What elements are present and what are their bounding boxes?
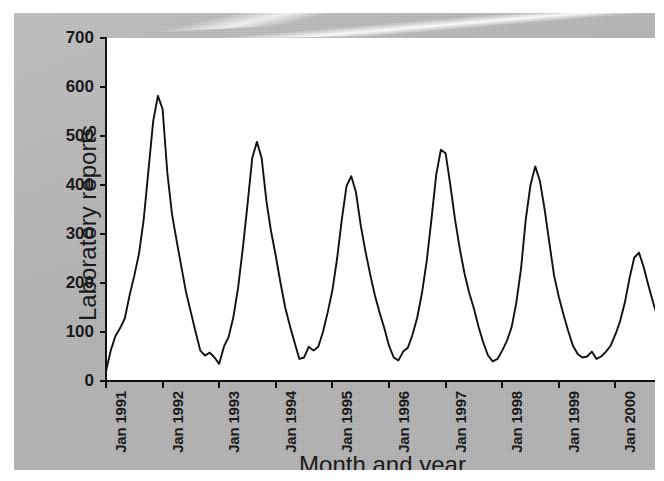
figure-root: 0100200300400500600700 Jan 1991Jan 1992J… (0, 0, 664, 481)
laboratory-reports-line (106, 96, 655, 379)
x-tick-mark (218, 382, 220, 388)
x-tick-label: Jan 1999 (565, 391, 582, 453)
line-chart-svg (106, 38, 655, 381)
x-tick-label: Jan 1992 (169, 391, 186, 453)
y-tick-mark (100, 37, 106, 39)
y-tick-label: 700 (44, 29, 94, 46)
x-tick-mark (105, 382, 107, 388)
x-tick-mark (162, 382, 164, 388)
x-tick-label: Jan 1996 (395, 391, 412, 453)
x-tick-mark (558, 382, 560, 388)
x-tick-label: Jan 1993 (225, 391, 242, 453)
x-axis-line (105, 380, 655, 382)
scan-streak-artifact-secondary (134, 13, 374, 33)
scan-streak-artifact (194, 13, 655, 39)
scanned-page-panel: 0100200300400500600700 Jan 1991Jan 1992J… (14, 13, 655, 470)
plot-area (106, 38, 655, 381)
x-tick-mark (445, 382, 447, 388)
x-axis-title: Month and year (106, 451, 655, 470)
x-tick-mark (388, 382, 390, 388)
x-tick-mark (331, 382, 333, 388)
x-tick-label: Jan 1995 (338, 391, 355, 453)
x-tick-label: Jan 1997 (452, 391, 469, 453)
y-axis-title: Laboratory reports (74, 63, 102, 383)
x-tick-label: Jan 2000 (621, 391, 638, 453)
x-tick-mark (614, 382, 616, 388)
x-tick-label: Jan 1991 (112, 391, 129, 453)
x-tick-mark (501, 382, 503, 388)
x-tick-label: Jan 1998 (508, 391, 525, 453)
x-tick-label: Jan 1994 (282, 391, 299, 453)
x-tick-mark (275, 382, 277, 388)
